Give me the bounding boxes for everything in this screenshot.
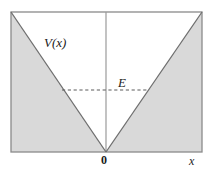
origin-label: 0	[101, 154, 107, 166]
x-axis-label: x	[189, 155, 194, 167]
potential-plot	[0, 0, 213, 176]
potential-well-figure: V(x) E 0 x	[0, 0, 213, 176]
energy-label: E	[118, 76, 126, 89]
potential-label: V(x)	[44, 36, 66, 49]
